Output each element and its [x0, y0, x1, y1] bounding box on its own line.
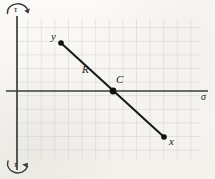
diagram-canvas: [0, 0, 215, 179]
point-x-marker: [161, 134, 167, 140]
curved-arrow-counterclockwise-icon: [8, 161, 29, 173]
point-label-y: y: [51, 31, 56, 42]
radius-label-R: R: [82, 64, 89, 75]
point-y-marker: [58, 40, 64, 46]
point-label-C: C: [116, 74, 123, 85]
sigma-axis-label: σ: [201, 92, 206, 102]
point-C-marker: [110, 88, 117, 95]
point-label-x: x: [169, 136, 174, 147]
tau-label-bottom: τ: [14, 160, 17, 169]
mohrs-circle-figure: y R C x σ τ τ: [0, 0, 215, 179]
curved-arrow-clockwise-icon: [7, 4, 31, 14]
tau-label-top: τ: [14, 5, 17, 14]
